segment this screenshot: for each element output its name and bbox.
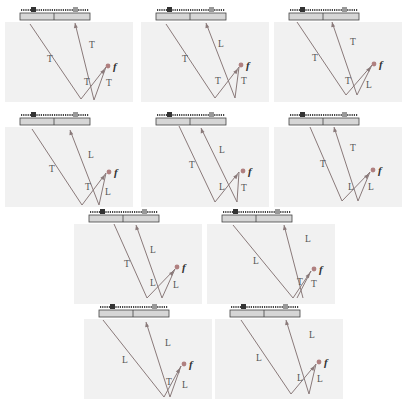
ray-path-panel-4: f T L T L [3,110,136,210]
ray-diagram: f T L T L [3,110,136,210]
probe-connector-right [342,7,347,12]
wave-mode-label-1: L [122,355,128,365]
focus-point [317,360,322,365]
wave-mode-label-4: L [182,380,188,390]
ray-path-panel-8: f L L T T [205,207,338,307]
probe-connector-left [110,304,115,309]
probe-connector-left [31,112,36,117]
focus-point [241,169,246,174]
wave-mode-label-3: T [215,76,221,86]
probe-connector-right [209,112,214,117]
wave-mode-label-1: T [47,54,53,64]
wave-mode-label-3: L [348,182,354,192]
wave-mode-label-1: L [253,256,259,266]
wave-mode-label-3: T [84,77,90,87]
ray-diagram: f L L L L [213,302,346,402]
focus-point [371,168,376,173]
wave-mode-label-4: T [241,183,247,193]
specimen-region [274,22,402,102]
ray-diagram: f T T T T [3,5,136,105]
ray-diagram: f T L L L [72,207,205,307]
probe-wedge [156,118,226,125]
wave-mode-label-3: L [219,182,225,192]
array-probe [156,112,226,125]
wave-mode-label-2: T [350,143,356,153]
probe-connector-right [73,7,78,12]
ray-path-panel-10: f L L L L [213,302,346,402]
wave-mode-label-1: L [256,353,262,363]
probe-connector-right [152,304,157,309]
specimen-region [141,22,269,102]
probe-connector-right [275,209,280,214]
array-probe [20,112,90,125]
wave-mode-label-4: L [105,187,111,197]
ray-path-panel-3: f T T T L [272,5,405,105]
probe-connector-left [233,209,238,214]
wave-mode-label-2: T [89,40,95,50]
wave-mode-label-3: L [297,373,303,383]
wave-mode-label-4: L [368,182,374,192]
ray-diagram: f T T L L [272,110,405,210]
probe-connector-left [300,112,305,117]
wave-mode-label-2: L [150,245,156,255]
array-probe [99,304,169,317]
array-probe [222,209,292,222]
probe-connector-right [73,112,78,117]
wave-mode-label-1: T [320,159,326,169]
wave-mode-label-2: L [309,330,315,340]
wave-mode-label-1: T [124,259,130,269]
wave-mode-label-2: L [218,39,224,49]
wave-mode-label-3: L [150,278,156,288]
wave-mode-label-4: T [106,78,112,88]
wave-mode-label-4: L [317,374,323,384]
probe-wedge [222,215,292,222]
wave-mode-label-1: T [189,160,195,170]
wave-mode-label-2: T [350,37,356,47]
ray-diagram: f L L T L [82,302,215,402]
wave-mode-label-1: T [312,53,318,63]
array-probe [289,112,359,125]
ray-path-panel-1: f T T T T [3,5,136,105]
ray-path-panel-5: f T L L T [139,110,272,210]
probe-connector-left [300,7,305,12]
wave-mode-label-4: L [366,80,372,90]
probe-connector-left [167,7,172,12]
ray-path-panel-6: f T T L L [272,110,405,210]
ray-diagram: f T L T T [139,5,272,105]
probe-wedge [89,215,159,222]
probe-connector-right [283,304,288,309]
wave-mode-label-4: L [173,280,179,290]
focus-point [372,62,377,67]
probe-wedge [289,13,359,20]
focus-point [106,64,111,69]
wave-mode-label-3: T [85,182,91,192]
focus-point [312,267,317,272]
probe-wedge [230,310,300,317]
focus-point [182,362,187,367]
ray-path-panel-2: f T L T T [139,5,272,105]
ray-diagram: f L L T T [205,207,338,307]
wave-mode-label-3: T [297,277,303,287]
probe-connector-left [167,112,172,117]
wave-mode-label-2: L [165,338,171,348]
wave-mode-label-2: L [219,145,225,155]
wave-mode-label-2: L [88,150,94,160]
ray-path-panel-9: f L L T L [82,302,215,402]
probe-connector-right [342,112,347,117]
array-probe [230,304,300,317]
array-probe [156,7,226,20]
wave-mode-label-3: T [166,377,172,387]
probe-wedge [99,310,169,317]
ray-path-panel-7: f T L L L [72,207,205,307]
probe-connector-left [31,7,36,12]
probe-wedge [289,118,359,125]
wave-mode-label-2: L [305,234,311,244]
array-probe [20,7,90,20]
wave-mode-label-1: T [49,164,55,174]
probe-wedge [156,13,226,20]
probe-connector-left [100,209,105,214]
wave-mode-label-1: T [182,54,188,64]
probe-connector-right [142,209,147,214]
focus-point [175,265,180,270]
ray-diagram: f T L L T [139,110,272,210]
